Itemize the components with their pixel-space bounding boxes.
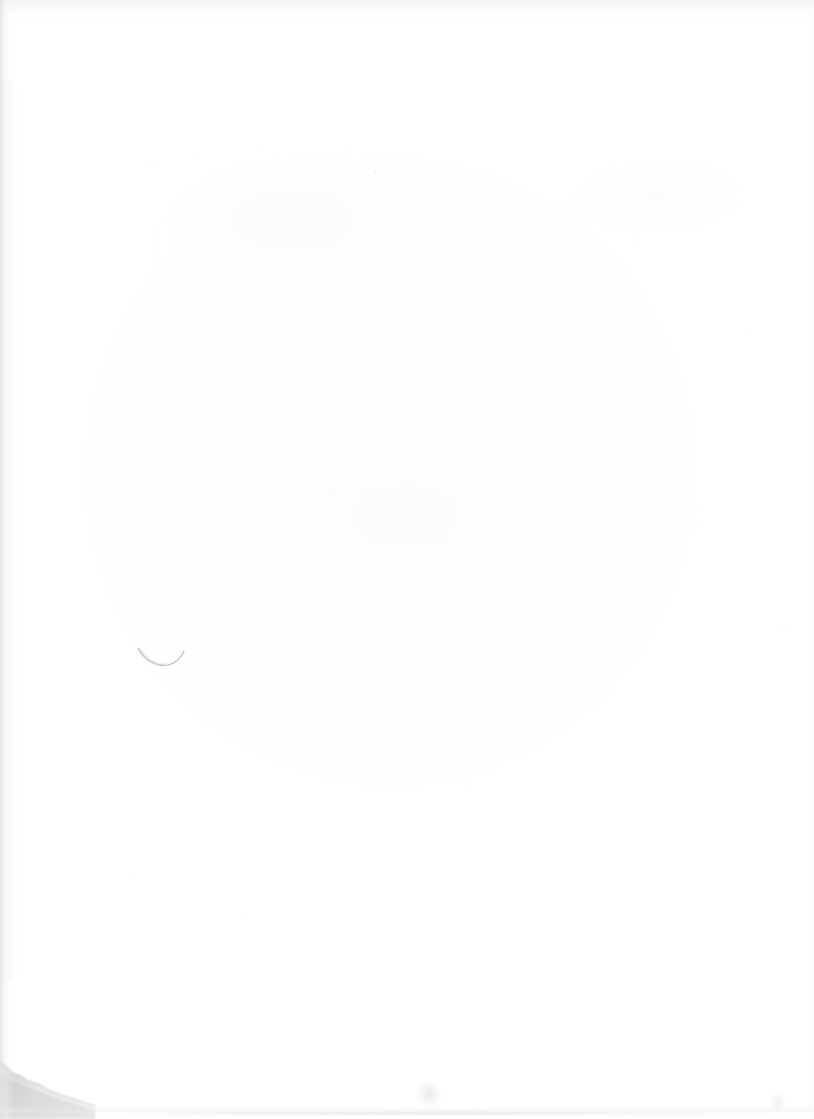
smudge-bottom-center xyxy=(416,1082,442,1108)
page-edge-shadow-left-inner xyxy=(6,80,16,980)
page-edge-shadow-right xyxy=(806,0,814,1119)
page-edge-shadow-top xyxy=(0,0,814,26)
torn-corner-region xyxy=(0,1040,130,1119)
smudge-bottom-right xyxy=(770,1092,786,1112)
scanned-page xyxy=(0,0,814,1119)
bleed-through-ghost-upper-right xyxy=(560,155,760,245)
dust-speck-layer xyxy=(0,0,814,1119)
pencil-arc-mark xyxy=(134,640,194,676)
bleed-through-ghost-center xyxy=(300,430,530,570)
page-edge-line-bottom-inner xyxy=(120,1112,780,1115)
page-edge-shadow-left xyxy=(0,0,14,1119)
page-edge-line-bottom xyxy=(0,1108,814,1113)
bleed-through-ghost-upper xyxy=(150,150,430,300)
